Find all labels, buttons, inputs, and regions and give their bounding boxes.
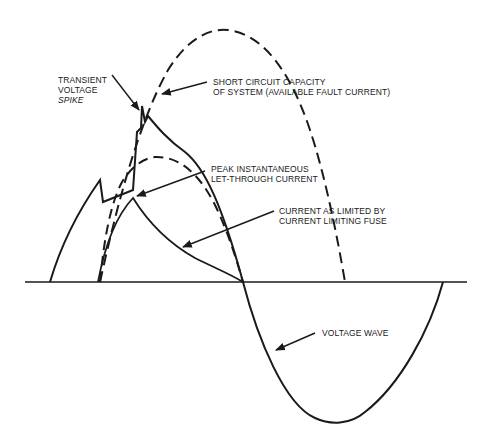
limited-current-label-line2: CURRENT LIMITING FUSE: [279, 216, 387, 226]
voltage-wave-label: VOLTAGE WAVE: [322, 328, 389, 338]
voltage-wave-label-line1: VOLTAGE WAVE: [322, 328, 389, 338]
transient-spike-arrow: [112, 75, 139, 110]
limited-current-arrow: [183, 211, 274, 247]
transient-spike-label-line2: VOLTAGE: [58, 85, 107, 95]
limited-current-label: CURRENT AS LIMITED BY CURRENT LIMITING F…: [279, 206, 387, 226]
fuse-let-through-diagram: [0, 0, 490, 447]
peak-letthrough-arrow: [137, 171, 205, 196]
transient-spike-label: TRANSIENT VOLTAGE SPIKE: [58, 75, 107, 105]
transient-spike-label-line1: TRANSIENT: [58, 75, 107, 85]
peak-letthrough-label: PEAK INSTANTANEOUS LET-THROUGH CURRENT: [211, 164, 318, 184]
voltage-wave-arrow: [276, 333, 315, 350]
short-circuit-label-line2: OF SYSTEM (AVAILABLE FAULT CURRENT): [213, 87, 390, 97]
short-circuit-arrow: [162, 82, 207, 94]
short-circuit-label-line1: SHORT CIRCUIT CAPACITY: [213, 77, 390, 87]
voltage-wave-curve: [50, 106, 443, 423]
limited-current-label-line1: CURRENT AS LIMITED BY: [279, 206, 387, 216]
peak-letthrough-label-line1: PEAK INSTANTANEOUS: [211, 164, 318, 174]
peak-letthrough-label-line2: LET-THROUGH CURRENT: [211, 174, 318, 184]
transient-spike-label-line3: SPIKE: [58, 95, 107, 105]
short-circuit-label: SHORT CIRCUIT CAPACITY OF SYSTEM (AVAILA…: [213, 77, 390, 97]
available-fault-current-curve: [100, 30, 345, 282]
